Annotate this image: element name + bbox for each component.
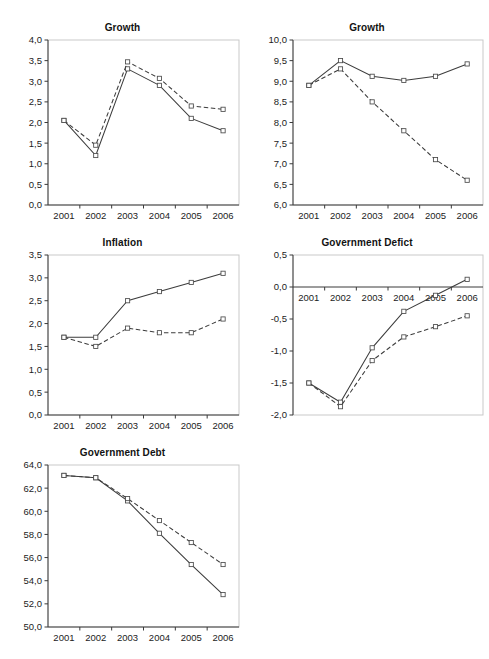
data-point-marker [157,518,161,522]
x-tick-label: 2001 [53,210,74,221]
y-tick-label: 2,0 [29,318,42,329]
y-tick-label: 2,5 [29,295,42,306]
x-tick-label: 2002 [85,632,106,643]
y-tick-label: 52,0 [24,598,43,609]
x-tick-label: 2004 [393,292,414,303]
data-point-marker [307,83,311,87]
y-tick-label: 60,0 [24,506,43,517]
y-tick-label: 8,0 [274,117,287,128]
x-tick-label: 2005 [181,420,202,431]
y-tick-label: -1,0 [271,345,287,356]
data-point-marker [221,129,225,133]
data-point-marker [125,299,129,303]
y-tick-label: 0,5 [274,249,287,260]
y-tick-label: 7,5 [274,138,287,149]
y-tick-label: 58,0 [24,529,43,540]
data-point-marker [157,531,161,535]
data-point-marker [189,104,193,108]
x-tick-label: 2001 [298,292,319,303]
data-point-marker [370,100,374,104]
chart-panel-government-debt: Government Debt50,052,054,056,058,060,06… [0,447,245,659]
plot-area-growth-2: 6,06,57,07,58,08,59,09,510,0200120022003… [245,22,489,237]
plot-area-inflation: 0,00,51,01,52,02,53,03,52001200220032004… [0,237,245,447]
y-tick-label: 64,0 [24,459,43,470]
chart-panel-government-deficit: Government Defict-2,0-1,5-1,0-0,50,00,52… [245,237,489,447]
data-point-marker [433,325,437,329]
y-tick-label: 62,0 [24,483,43,494]
data-point-marker [94,143,98,147]
data-point-marker [465,178,469,182]
x-tick-label: 2004 [149,420,170,431]
data-point-marker [189,116,193,120]
data-point-marker [370,359,374,363]
data-point-marker [189,540,193,544]
data-point-marker [62,473,66,477]
x-tick-label: 2003 [117,420,138,431]
data-point-marker [189,280,193,284]
x-tick-label: 2003 [117,210,138,221]
y-tick-label: 6,0 [274,199,287,210]
x-tick-label: 2002 [330,292,351,303]
series-line-dashed [64,319,223,346]
data-point-marker [125,67,129,71]
y-tick-label: 1,5 [29,138,42,149]
x-tick-label: 2005 [181,210,202,221]
data-point-marker [402,129,406,133]
y-tick-label: 0,0 [29,409,42,420]
x-tick-label: 2002 [330,210,351,221]
data-point-marker [221,317,225,321]
data-point-marker [465,277,469,281]
data-point-marker [402,309,406,313]
data-point-marker [221,107,225,111]
data-point-marker [221,271,225,275]
y-tick-label: 9,0 [274,76,287,87]
data-point-marker [433,293,437,297]
y-tick-label: 0,0 [274,281,287,292]
data-point-marker [307,381,311,385]
data-point-marker [157,289,161,293]
chart-panel-inflation: Inflation0,00,51,01,52,02,53,03,52001200… [0,237,245,447]
series-line-solid [64,273,223,337]
data-point-marker [402,335,406,339]
data-point-marker [125,496,129,500]
x-tick-label: 2003 [117,632,138,643]
series-line-dashed [64,475,223,564]
data-point-marker [370,74,374,78]
plot-area-government-debt: 50,052,054,056,058,060,062,064,020012002… [0,447,245,659]
x-tick-label: 2006 [457,292,478,303]
y-tick-label: -1,5 [271,377,287,388]
x-tick-label: 2006 [457,210,478,221]
y-tick-label: 1,0 [29,364,42,375]
series-line-dashed [64,62,223,145]
y-tick-label: 0,5 [29,387,42,398]
data-point-marker [338,59,342,63]
y-tick-label: 2,0 [29,117,42,128]
data-point-marker [94,153,98,157]
y-tick-label: 9,5 [274,55,287,66]
x-tick-label: 2006 [213,420,234,431]
data-point-marker [338,67,342,71]
plot-area-growth-1: 0,00,51,01,52,02,53,03,54,02001200220032… [0,22,245,237]
y-tick-label: 1,5 [29,341,42,352]
x-tick-label: 2001 [53,420,74,431]
y-tick-label: 8,5 [274,96,287,107]
data-point-marker [62,335,66,339]
x-tick-label: 2006 [213,632,234,643]
series-line-solid [309,61,467,86]
y-tick-label: -0,5 [271,313,287,324]
data-point-marker [94,335,98,339]
chart-panel-growth-2: Growth6,06,57,07,58,08,59,09,510,0200120… [245,22,489,237]
data-point-marker [157,83,161,87]
y-tick-label: 3,0 [29,76,42,87]
y-tick-label: 6,5 [274,179,287,190]
data-point-marker [402,78,406,82]
data-point-marker [465,62,469,66]
data-point-marker [157,76,161,80]
data-point-marker [157,331,161,335]
x-tick-label: 2004 [393,210,414,221]
y-tick-label: 1,0 [29,158,42,169]
data-point-marker [465,314,469,318]
y-tick-label: 50,0 [24,621,43,632]
chart-title-government-debt: Government Debt [0,447,245,458]
chart-title-growth-2: Growth [245,22,489,33]
